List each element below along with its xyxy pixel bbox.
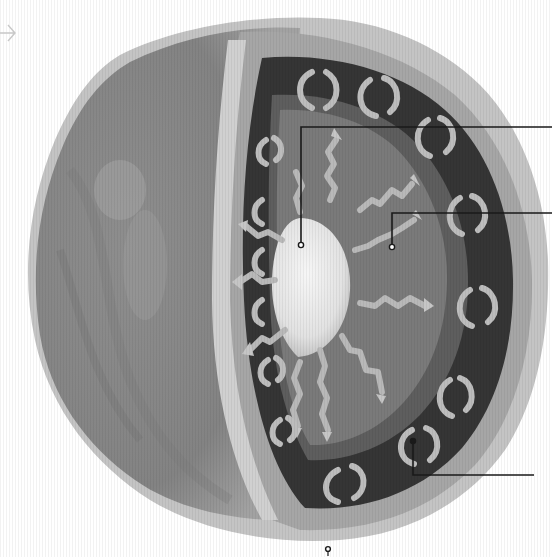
anchor-dot-heat-radiation [389, 244, 394, 249]
arrow-right-icon [0, 22, 20, 44]
scanline-texture [0, 0, 552, 557]
anchor-dot-convection [410, 438, 415, 443]
anchor-dot-inner-core [298, 242, 303, 247]
planet-cutaway-diagram [0, 0, 552, 557]
anchor-pin-bottom [326, 547, 331, 552]
diagram-canvas [0, 0, 552, 557]
